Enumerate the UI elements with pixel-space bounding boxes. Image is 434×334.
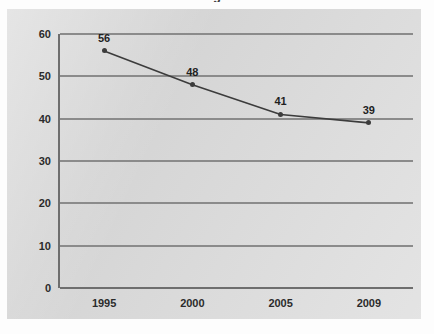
data-point-label-2000: 48	[186, 66, 198, 78]
y-tick-label-10: 10	[39, 240, 51, 252]
data-point-label-2005: 41	[275, 95, 287, 107]
plot-area: 0102030405060 1995200020052009 56484139	[60, 34, 413, 288]
x-tick-label-1995: 1995	[92, 297, 116, 309]
y-tick-label-50: 50	[39, 70, 51, 82]
y-tick-label-20: 20	[39, 197, 51, 209]
chart-panel: 0102030405060 1995200020052009 56484139	[7, 9, 421, 319]
data-point-label-2009: 39	[363, 104, 375, 116]
y-tick-label-40: 40	[39, 113, 51, 125]
title-fragment: g	[0, 0, 434, 2]
chart-figure: g 0102030405060 1995200020052009 5648413…	[0, 0, 434, 334]
series-line	[60, 34, 413, 288]
data-point-label-1995: 56	[98, 32, 110, 44]
x-tick-label-2005: 2005	[268, 297, 292, 309]
y-tick-label-60: 60	[39, 28, 51, 40]
x-tick-label-2000: 2000	[180, 297, 204, 309]
y-tick-label-0: 0	[45, 282, 51, 294]
y-tick-label-30: 30	[39, 155, 51, 167]
x-tick-label-2009: 2009	[357, 297, 381, 309]
